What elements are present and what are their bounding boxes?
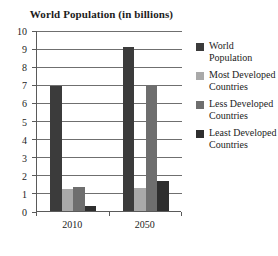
legend-label: Most Developed Countries [209, 69, 278, 92]
legend-label: Less Developed Countries [209, 98, 278, 121]
legend-item: Less Developed Countries [196, 98, 278, 121]
y-tick-mark [32, 85, 36, 86]
bar [62, 189, 74, 211]
bar [123, 47, 135, 211]
legend-item: Least Developed Countries [196, 127, 278, 150]
y-tick-label: 7 [0, 80, 27, 91]
x-tick-mark [36, 212, 37, 216]
y-tick-mark [32, 157, 36, 158]
chart-figure: World Population (in billions) 012345678… [0, 0, 278, 256]
y-tick-label: 0 [0, 207, 27, 218]
bar [85, 206, 97, 211]
legend-swatch-icon [196, 101, 204, 109]
y-tick-mark [32, 193, 36, 194]
bar [146, 86, 158, 211]
y-tick-label: 4 [0, 134, 27, 145]
bar [134, 188, 146, 211]
bar [157, 181, 169, 211]
y-tick-mark [32, 103, 36, 104]
y-tick-label: 6 [0, 98, 27, 109]
y-tick-mark [32, 31, 36, 32]
bar [50, 86, 62, 211]
x-tick-mark [181, 212, 182, 216]
y-tick-label: 8 [0, 62, 27, 73]
legend-swatch-icon [196, 72, 204, 80]
y-tick-mark [32, 139, 36, 140]
legend-item: Most Developed Countries [196, 69, 278, 92]
gridline [37, 31, 182, 32]
y-tick-mark [32, 175, 36, 176]
y-tick-label: 9 [0, 44, 27, 55]
legend-swatch-icon [196, 43, 204, 51]
legend-item: World Population [196, 40, 278, 63]
y-tick-label: 10 [0, 26, 27, 37]
y-tick-label: 1 [0, 188, 27, 199]
chart-legend: World PopulationMost Developed Countries… [196, 40, 278, 156]
chart-title: World Population (in billions) [14, 8, 189, 20]
legend-swatch-icon [196, 130, 204, 138]
gridline [37, 49, 182, 50]
plot-area [36, 31, 181, 212]
legend-label: Least Developed Countries [209, 127, 278, 150]
y-tick-mark [32, 49, 36, 50]
y-tick-label: 3 [0, 152, 27, 163]
y-tick-mark [32, 121, 36, 122]
x-tick-label: 2050 [115, 219, 175, 230]
x-tick-mark [109, 212, 110, 216]
legend-label: World Population [209, 40, 278, 63]
y-tick-label: 5 [0, 116, 27, 127]
gridline [37, 67, 182, 68]
y-tick-mark [32, 67, 36, 68]
x-tick-label: 2010 [42, 219, 102, 230]
bar [73, 187, 85, 211]
y-tick-label: 2 [0, 170, 27, 181]
